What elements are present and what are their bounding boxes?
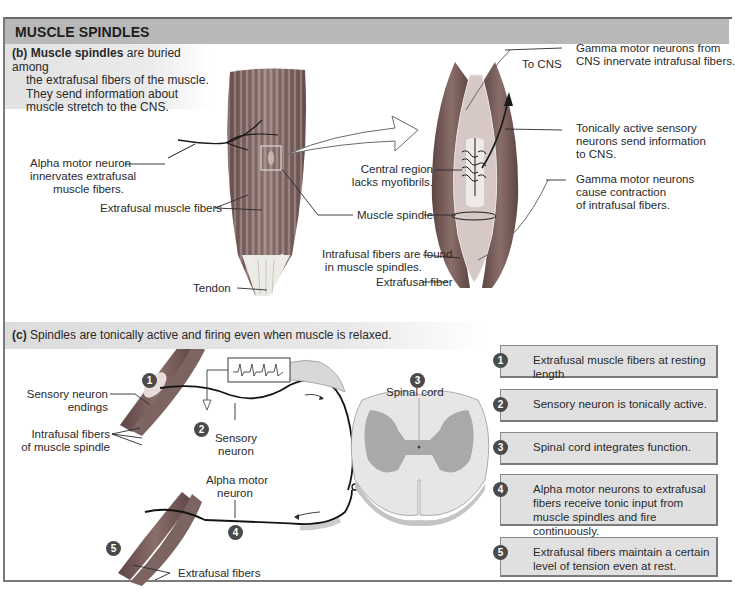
label-tendon: Tendon bbox=[193, 282, 231, 295]
step-badge-3: 3 bbox=[493, 440, 508, 455]
step-box-2: 2 Sensory neuron is tonically active. bbox=[500, 389, 718, 422]
step-box-3: 3 Spinal cord integrates function. bbox=[500, 432, 718, 465]
step-box-1: 1 Extrafusal muscle fibers at resting le… bbox=[500, 345, 718, 378]
label-intrafusal-fibers-spindle: Intrafusal fibers of muscle spindle bbox=[10, 428, 110, 454]
step-badge-2: 2 bbox=[493, 397, 508, 412]
step-text-1: Extrafusal muscle fibers at resting leng… bbox=[533, 354, 706, 380]
label-gamma-motor-from-cns: Gamma motor neurons from CNS innervate i… bbox=[576, 42, 735, 68]
step-box-5: 5 Extrafusal fibers maintain a certain l… bbox=[500, 537, 718, 577]
step-box-4: 4 Alpha motor neurons to extrafusal fibe… bbox=[500, 474, 718, 526]
panel-c-caption: (c) Spindles are tonically active and fi… bbox=[12, 328, 392, 342]
spinal-cord-cross-section bbox=[351, 391, 488, 526]
step-text-5: Extrafusal fibers maintain a certain lev… bbox=[533, 546, 709, 572]
step-text-2: Sensory neuron is tonically active. bbox=[533, 398, 707, 410]
label-extrafusal-fibers-c: Extrafusal fibers bbox=[178, 567, 260, 580]
label-spinal-cord: Spinal cord bbox=[386, 386, 444, 399]
marker-4: 4 bbox=[228, 525, 243, 540]
label-muscle-spindle: Muscle spindle bbox=[357, 209, 433, 222]
label-to-cns: To CNS bbox=[522, 58, 562, 71]
label-intrafusal-fibers: Intrafusal fibers are found in muscle sp… bbox=[322, 248, 422, 274]
marker-5: 5 bbox=[106, 541, 121, 556]
step-badge-5: 5 bbox=[493, 545, 508, 560]
label-sensory-neuron-endings: Sensory neuron endings bbox=[20, 388, 108, 414]
label-extrafusal-muscle-fibers: Extrafusal muscle fibers bbox=[100, 202, 222, 215]
marker-1: 1 bbox=[142, 373, 157, 388]
marker-2: 2 bbox=[194, 422, 209, 437]
label-extrafusal-fiber: Extrafusal fiber bbox=[376, 276, 453, 289]
step-badge-1: 1 bbox=[493, 353, 508, 368]
label-alpha-motor-neuron: Alpha motor neuron innervates extrafusal… bbox=[30, 157, 124, 196]
muscle-illustration bbox=[168, 68, 306, 296]
step-text-3: Spinal cord integrates function. bbox=[533, 441, 691, 453]
label-tonically-active-sensory: Tonically active sensory neurons send in… bbox=[576, 122, 706, 161]
label-sensory-neuron: Sensory neuron bbox=[214, 432, 258, 458]
label-central-region: Central region lacks myofibrils. bbox=[345, 163, 433, 189]
marker-3: 3 bbox=[410, 373, 425, 388]
label-alpha-motor-neuron-c: Alpha motor neuron bbox=[206, 474, 264, 500]
label-gamma-motor-contraction: Gamma motor neurons cause contraction of… bbox=[576, 173, 694, 212]
step-badge-4: 4 bbox=[493, 482, 508, 497]
